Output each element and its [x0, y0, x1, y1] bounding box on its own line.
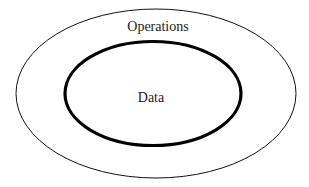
- inner-label: Data: [138, 90, 165, 105]
- outer-label: Operations: [127, 19, 188, 34]
- diagram-canvas: Operations Data: [0, 0, 309, 187]
